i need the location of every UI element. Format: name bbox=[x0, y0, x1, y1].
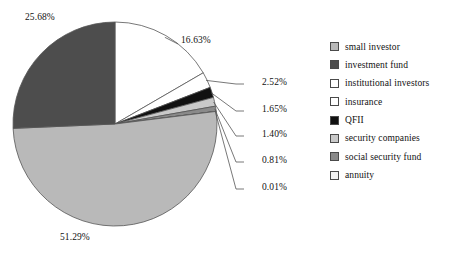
pie-slice[interactable] bbox=[13, 111, 217, 226]
legend-item[interactable]: social security fund bbox=[330, 150, 454, 163]
pct-label-investment-fund: 25.68% bbox=[25, 12, 55, 22]
legend-swatch-icon bbox=[330, 79, 339, 88]
legend-item[interactable]: investment fund bbox=[330, 58, 454, 71]
legend-item[interactable]: insurance bbox=[330, 95, 454, 108]
chart-legend: small investorinvestment fundinstitution… bbox=[330, 40, 454, 182]
pct-label-insurance: 2.52% bbox=[262, 77, 287, 87]
legend-item[interactable]: small investor bbox=[330, 40, 454, 53]
pie-chart-figure: 25.68% 16.63% 2.52% 1.65% 1.40% 0.81% 0.… bbox=[0, 0, 454, 259]
legend-swatch-icon bbox=[330, 60, 339, 69]
legend-item-label: QFII bbox=[345, 115, 364, 125]
pct-label-small-investor: 51.29% bbox=[60, 232, 90, 242]
pie-slice[interactable] bbox=[13, 22, 115, 128]
legend-item[interactable]: annuity bbox=[330, 169, 454, 182]
legend-swatch-icon bbox=[330, 152, 339, 161]
pct-label-institutional-investors: 16.63% bbox=[181, 35, 211, 45]
legend-item[interactable]: security companies bbox=[330, 132, 454, 145]
legend-item-label: investment fund bbox=[345, 60, 408, 70]
legend-item-label: security companies bbox=[345, 133, 420, 143]
legend-swatch-icon bbox=[330, 97, 339, 106]
legend-swatch-icon bbox=[330, 134, 339, 143]
legend-swatch-icon bbox=[330, 171, 339, 180]
legend-item[interactable]: institutional investors bbox=[330, 77, 454, 90]
legend-item-label: insurance bbox=[345, 97, 382, 107]
legend-item-label: small investor bbox=[345, 42, 400, 52]
leader-line bbox=[215, 109, 244, 162]
legend-swatch-icon bbox=[330, 42, 339, 51]
pct-label-security-companies: 1.40% bbox=[262, 129, 287, 139]
pct-label-social-security-fund: 0.81% bbox=[262, 155, 287, 165]
pie-slices bbox=[13, 22, 217, 226]
leader-line bbox=[206, 80, 244, 84]
pct-label-annuity: 0.01% bbox=[262, 182, 287, 192]
legend-swatch-icon bbox=[330, 116, 339, 125]
leader-line bbox=[214, 102, 244, 136]
legend-item-label: social security fund bbox=[345, 152, 421, 162]
legend-item-label: annuity bbox=[345, 170, 374, 180]
leader-line bbox=[215, 111, 244, 189]
legend-item[interactable]: QFII bbox=[330, 114, 454, 127]
pct-label-qfii: 1.65% bbox=[262, 104, 287, 114]
legend-item-label: institutional investors bbox=[345, 78, 429, 88]
